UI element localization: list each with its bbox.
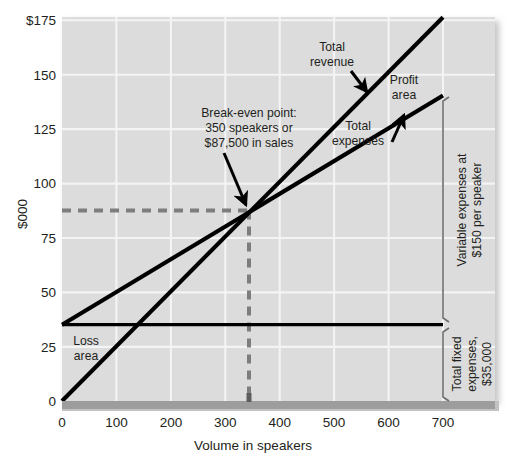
break-even-label-line1: Break-even point: xyxy=(201,106,297,120)
break-even-label-line3: $87,500 in sales xyxy=(205,136,294,150)
x-axis-bar xyxy=(62,401,495,409)
y-tick-0: 0 xyxy=(48,394,56,409)
y-tick-75: 75 xyxy=(41,231,56,246)
y-tick-25: 25 xyxy=(41,340,56,355)
x-tick-600: 600 xyxy=(377,415,400,430)
variable-bracket-line1: Variable expenses at xyxy=(455,153,469,267)
profit-area-label-line1: Profit xyxy=(390,73,419,87)
x-tick-700: 700 xyxy=(432,415,455,430)
x-tick-200: 200 xyxy=(160,415,183,430)
y-tick-175: $175 xyxy=(26,13,56,28)
break-even-chart: $175 150 125 100 75 50 25 0 $000 0 100 2… xyxy=(0,0,522,460)
total-revenue-label-line2: revenue xyxy=(310,55,354,69)
y-axis-title: $000 xyxy=(15,199,30,229)
fixed-bracket-line2: expenses, xyxy=(465,336,479,392)
profit-area-label-line2: area xyxy=(392,88,417,102)
x-tick-500: 500 xyxy=(323,415,346,430)
profit-area-annotation: Profit area xyxy=(390,73,419,102)
x-tick-300: 300 xyxy=(214,415,237,430)
y-tick-150: 150 xyxy=(33,68,56,83)
loss-area-label-line2: area xyxy=(74,349,99,363)
x-tick-100: 100 xyxy=(105,415,128,430)
fixed-expenses-bracket-label: Total fixed expenses, $35,000 xyxy=(450,336,494,392)
y-tick-100: 100 xyxy=(33,176,56,191)
fixed-bracket-line1: Total fixed xyxy=(450,337,464,392)
fixed-bracket-line3: $35,000 xyxy=(480,342,494,386)
y-tick-50: 50 xyxy=(41,285,56,300)
loss-area-annotation: Loss area xyxy=(73,334,99,363)
total-expenses-label-line2: expenses xyxy=(332,134,384,148)
y-tick-125: 125 xyxy=(33,122,56,137)
variable-bracket-line2: $150 per speaker xyxy=(470,163,484,258)
variable-expenses-bracket-label: Variable expenses at $150 per speaker xyxy=(455,153,484,267)
x-tick-mark-350 xyxy=(247,393,252,402)
chart-canvas: $175 150 125 100 75 50 25 0 $000 0 100 2… xyxy=(0,0,522,460)
loss-area-label-line1: Loss xyxy=(73,334,99,348)
total-expenses-label-line1: Total xyxy=(345,119,371,133)
break-even-label-line2: 350 speakers or xyxy=(205,121,292,135)
x-tick-400: 400 xyxy=(268,415,291,430)
total-revenue-label-line1: Total xyxy=(319,40,345,54)
x-axis-title: Volume in speakers xyxy=(194,438,312,453)
x-tick-0: 0 xyxy=(58,415,66,430)
x-axis-bar-group xyxy=(62,401,499,411)
